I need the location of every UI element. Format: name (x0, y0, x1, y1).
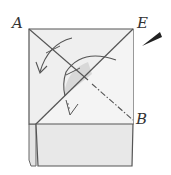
label-B: B (135, 110, 147, 128)
bottom-flap (36, 124, 133, 166)
origami-diagram: A E B (0, 0, 171, 175)
dot (68, 107, 70, 109)
label-E: E (136, 14, 148, 32)
dot (67, 103, 69, 105)
pencil-pointer-icon (142, 32, 162, 46)
left-flap-sliver (29, 124, 36, 166)
label-A: A (10, 14, 23, 32)
